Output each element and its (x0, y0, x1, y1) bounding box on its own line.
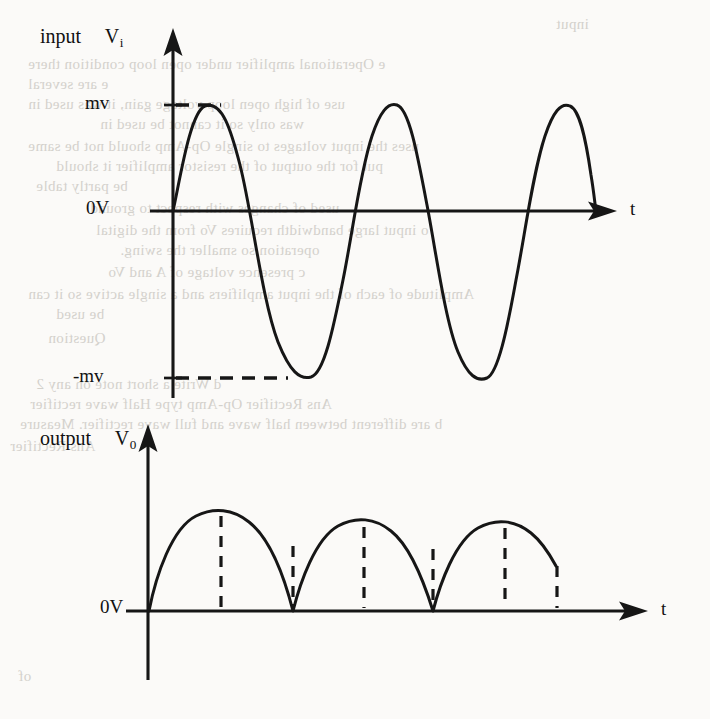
input-ytick-label-0v: 0V (86, 197, 109, 219)
input-symbol-main: V (105, 25, 119, 47)
input-xaxis-label: t (630, 198, 635, 220)
output-rectified-waveform (149, 510, 556, 611)
input-ytick-label-mv: mv (85, 92, 109, 114)
scanned-page: inpute Operational amplifier under open … (0, 0, 710, 719)
input-symbol-sub: i (119, 35, 123, 50)
input-label-prefix: input (40, 25, 81, 47)
output-label-prefix: output (40, 427, 91, 449)
output-symbol-sub: 0 (129, 437, 136, 452)
output-chart-label: output V0 (40, 427, 136, 453)
input-ytick-label-minus-mv: -mv (73, 365, 104, 387)
input-chart-label: input Vi (40, 25, 123, 51)
input-sine-waveform (173, 104, 596, 379)
output-ytick-label-0v: 0V (100, 596, 123, 618)
output-xaxis-label: t (661, 598, 666, 620)
output-symbol-main: V (115, 427, 129, 449)
output-chart-group (126, 424, 648, 680)
input-chart-group (150, 28, 617, 398)
